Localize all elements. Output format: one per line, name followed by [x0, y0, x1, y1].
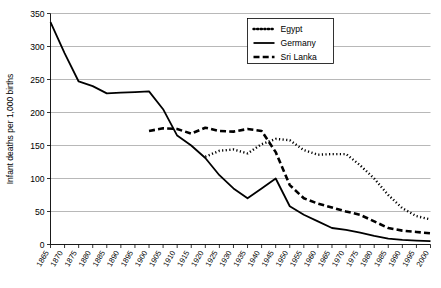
x-tick-label: 1975 [344, 249, 360, 268]
infant-mortality-line-chart: 050100150200250300350 186518701875188018… [0, 0, 441, 288]
x-tick-label: 1885 [91, 249, 107, 268]
chart-legend: EgyptGermanySri Lanka [248, 19, 334, 64]
x-tick-label: 1980 [358, 249, 374, 268]
y-axis-title: Infant deaths per 1,000 births [5, 74, 15, 185]
y-tick-label: 150 [30, 141, 45, 151]
y-gridlines [51, 14, 431, 212]
legend-label-germany: Germany [281, 38, 317, 48]
x-tick-label: 1965 [316, 249, 332, 268]
y-tick-label: 300 [30, 42, 45, 52]
x-tick-label: 2000 [414, 249, 430, 268]
x-tick-labels: 1865187018751880188518901895190019051910… [34, 249, 430, 268]
y-tick-label: 250 [30, 75, 45, 85]
x-tick-label: 1925 [203, 249, 219, 268]
x-tick-label: 1900 [133, 249, 149, 268]
legend-label-sri-lanka: Sri Lanka [281, 52, 318, 62]
y-tick-label: 350 [30, 9, 45, 19]
x-tick-label: 1960 [302, 249, 318, 268]
y-tick-label: 100 [30, 174, 45, 184]
x-tick-label: 1865 [34, 249, 50, 268]
x-tick-label: 1870 [49, 249, 65, 268]
y-tick-label: 200 [30, 108, 45, 118]
y-tick-labels: 050100150200250300350 [30, 9, 45, 250]
x-tick-label: 1950 [274, 249, 290, 268]
data-series-group [51, 22, 431, 241]
x-tick-label: 1905 [147, 249, 163, 268]
x-tick-label: 1985 [372, 249, 388, 268]
x-tick-label: 1910 [161, 249, 177, 268]
x-tick-label: 1895 [119, 249, 135, 268]
legend-label-egypt: Egypt [281, 24, 304, 34]
x-tick-marks [51, 245, 431, 249]
x-tick-label: 1990 [386, 249, 402, 268]
x-tick-label: 1940 [246, 249, 262, 268]
series-line-sri-lanka [149, 128, 430, 234]
x-tick-label: 1935 [232, 249, 248, 268]
y-tick-label: 0 [40, 240, 45, 250]
y-tick-label: 50 [35, 207, 45, 217]
x-tick-label: 1995 [400, 249, 416, 268]
chart-canvas: 050100150200250300350 186518701875188018… [0, 0, 441, 288]
x-tick-label: 1915 [175, 249, 191, 268]
x-tick-label: 1945 [260, 249, 276, 268]
x-tick-label: 1875 [63, 249, 79, 268]
x-tick-label: 1970 [330, 249, 346, 268]
x-tick-label: 1880 [77, 249, 93, 268]
x-tick-label: 1890 [105, 249, 121, 268]
x-tick-label: 1955 [288, 249, 304, 268]
x-tick-label: 1930 [217, 249, 233, 268]
x-tick-label: 1920 [189, 249, 205, 268]
series-line-egypt [205, 139, 430, 220]
y-tick-marks [47, 14, 51, 245]
